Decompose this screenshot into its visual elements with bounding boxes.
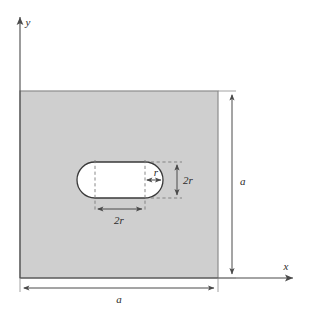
plate-with-capsule-hole-diagram: x y a a 2r 2r r xyxy=(0,0,312,313)
cap-radius-dim-label: r xyxy=(154,166,159,178)
figure-container: x y a a 2r 2r r xyxy=(0,0,312,313)
y-axis-label: y xyxy=(25,16,31,28)
plate-width-dim-label: a xyxy=(116,293,122,305)
x-axis-label: x xyxy=(283,260,289,272)
dimension-plate-height: a xyxy=(218,91,246,278)
hole-height-dim-label: 2r xyxy=(183,174,194,186)
dimension-plate-width: a xyxy=(20,278,218,305)
plate-height-dim-label: a xyxy=(240,175,246,187)
hole-length-dim-label: 2r xyxy=(114,214,125,226)
